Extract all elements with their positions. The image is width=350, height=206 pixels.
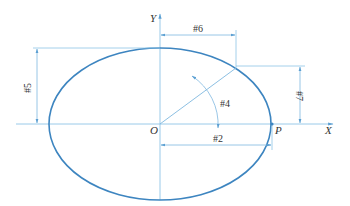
dim-6-label: #6 [193, 23, 203, 34]
dim-7-label: #7 [294, 91, 305, 101]
y-axis-label: Y [150, 12, 158, 24]
origin-label: O [150, 124, 158, 136]
dim-2-label: #2 [213, 133, 223, 144]
dim-5-label: #5 [22, 83, 33, 93]
dim-4-label: #4 [220, 98, 230, 109]
x-axis-label: X [324, 124, 333, 136]
point-p-marker [270, 122, 273, 125]
ellipse-diagram: #5 #6 #7 #2 #4 P X Y O [0, 0, 350, 206]
point-p-label: P [274, 124, 282, 136]
radius-line [160, 68, 236, 124]
